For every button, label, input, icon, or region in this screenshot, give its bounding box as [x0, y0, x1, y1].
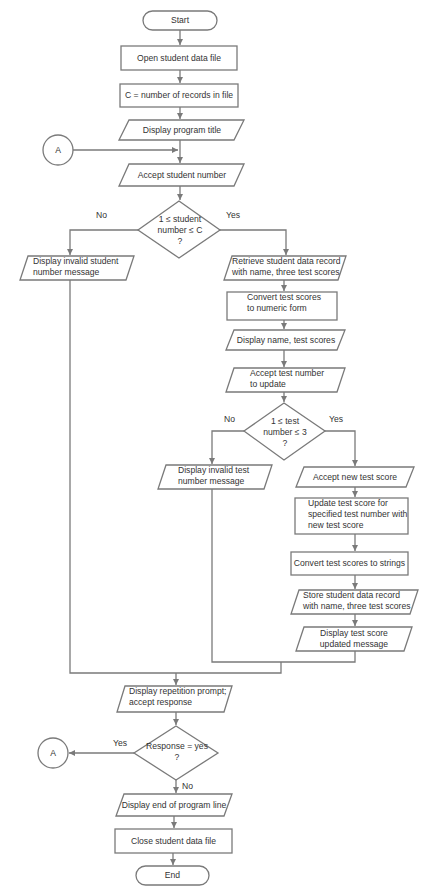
invalid-student-line-2: number message [33, 267, 99, 278]
update-score-line-1: Update test score for [308, 498, 388, 509]
edge-label-response-no: No [182, 781, 193, 791]
edge-label-student-yes: Yes [226, 210, 240, 220]
invalid-student-label: Display invalid student number message [33, 256, 133, 280]
display-updated-line-2: updated message [320, 639, 388, 650]
decision-student-line-1: 1 ≤ student [159, 214, 201, 225]
update-score-line-2: specified test number with [308, 509, 407, 520]
convert-numeric-label: Convert test scores to numeric form [247, 292, 337, 320]
repetition-prompt-label: Display repetition prompt; accept respon… [129, 686, 233, 712]
accept-test-number-line-1: Accept test number [250, 368, 324, 379]
invalid-test-label: Display invalid test number message [178, 465, 268, 489]
decision-student-label: 1 ≤ student number ≤ C ? [140, 206, 220, 254]
decision-test-label: 1 ≤ test number ≤ 3 ? [246, 408, 324, 456]
display-title-label: Display program title [122, 120, 242, 140]
convert-numeric-line-1: Convert test scores [247, 292, 321, 303]
store-record-line-1: Store student data record [303, 590, 400, 601]
invalid-test-line-1: Display invalid test [178, 465, 249, 476]
accept-new-score-label: Accept new test score [300, 467, 410, 487]
update-score-label: Update test score for specified test num… [308, 498, 408, 534]
count-records-label: C = number of records in file [120, 84, 238, 107]
repetition-prompt-line-1: Display repetition prompt; [129, 686, 226, 697]
repetition-prompt-line-2: accept response [129, 697, 192, 708]
accept-student-label: Accept student number [122, 164, 242, 186]
edge-label-response-yes: Yes [113, 738, 127, 748]
decision-test-line-3: ? [283, 438, 288, 449]
invalid-student-line-1: Display invalid student [33, 256, 119, 267]
display-scores-label: Display name, test scores [230, 330, 342, 350]
display-updated-label: Display test score updated message [300, 627, 408, 651]
decision-response-line-1: Response = yes [146, 741, 208, 752]
decision-student-line-3: ? [178, 236, 183, 247]
store-record-line-2: with name, three test scores [303, 601, 410, 612]
invalid-test-line-2: number message [178, 476, 244, 487]
convert-strings-label: Convert test scores to strings [291, 552, 408, 575]
decision-test-line-2: number ≤ 3 [263, 427, 306, 438]
store-record-label: Store student data record with name, thr… [303, 590, 415, 614]
retrieve-record-label: Retrieve student data record with name, … [232, 256, 344, 280]
edge-label-test-no: No [224, 414, 235, 424]
accept-test-number-label: Accept test number to update [250, 368, 340, 392]
accept-test-number-line-2: to update [250, 379, 286, 390]
update-score-line-3: new test score [308, 520, 363, 531]
decision-test-line-1: 1 ≤ test [271, 416, 299, 427]
display-end-label: Display end of program line [118, 794, 230, 816]
start-label: Start [143, 11, 217, 30]
decision-response-line-2: ? [175, 752, 180, 763]
edge-label-student-no: No [96, 210, 107, 220]
end-label: End [136, 866, 209, 885]
connector-a-top-label: A [43, 135, 73, 165]
decision-student-line-2: number ≤ C [158, 225, 203, 236]
convert-numeric-line-2: to numeric form [247, 303, 307, 314]
close-file-label: Close student data file [115, 829, 232, 853]
retrieve-record-line-2: with name, three test scores [232, 267, 339, 278]
display-updated-line-1: Display test score [320, 628, 388, 639]
decision-response-label: Response = yes ? [136, 736, 218, 768]
open-file-label: Open student data file [121, 46, 237, 70]
connector-a-bottom-label: A [38, 738, 68, 768]
edge-label-test-yes: Yes [329, 414, 343, 424]
retrieve-record-line-1: Retrieve student data record [232, 256, 340, 267]
